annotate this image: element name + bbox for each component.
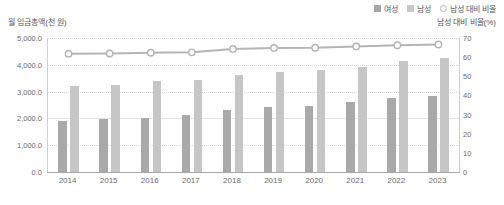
- gridline: [48, 65, 459, 66]
- bar-female[interactable]: [141, 118, 150, 172]
- x-axis-tick-label: 2017: [182, 176, 200, 185]
- bar-male[interactable]: [153, 81, 162, 172]
- y2-axis-tick-label: 40: [463, 91, 493, 100]
- y-axis-tick-label: 3,000.0: [0, 87, 42, 96]
- legend-item-ratio[interactable]: 남성 대비 비율: [440, 3, 496, 14]
- bar-female[interactable]: [346, 102, 355, 172]
- y2-axis-tick-label: 30: [463, 110, 493, 119]
- ratio-line-path: [69, 45, 439, 54]
- bar-female[interactable]: [182, 115, 191, 172]
- gridline: [48, 38, 459, 39]
- x-axis-tick-label: 2019: [264, 176, 282, 185]
- ratio-data-point[interactable]: [353, 43, 359, 49]
- bar-female[interactable]: [99, 119, 108, 172]
- ratio-line-series: [48, 38, 459, 172]
- bar-male[interactable]: [111, 85, 120, 172]
- y2-axis-tick-label: 10: [463, 148, 493, 157]
- right-axis-title: 남성 대비 비율(%): [437, 16, 496, 27]
- bar-female[interactable]: [428, 96, 437, 172]
- x-axis-tick-label: 2015: [100, 176, 118, 185]
- circle-marker-icon: [440, 5, 447, 12]
- bar-female[interactable]: [387, 98, 396, 172]
- y-axis-tick-label: 1,000.0: [0, 141, 42, 150]
- left-axis-title: 월 임금총액(천 원): [8, 16, 67, 27]
- y-axis-tick-label: 4,000.0: [0, 60, 42, 69]
- bar-male[interactable]: [235, 75, 244, 172]
- wage-gap-combo-chart: 여성 남성 남성 대비 비율 월 임금총액(천 원) 남성 대비 비율(%) 0…: [0, 0, 504, 205]
- x-axis-tick-label: 2023: [429, 176, 447, 185]
- bar-male[interactable]: [440, 58, 449, 172]
- x-axis-tick-label: 2020: [305, 176, 323, 185]
- legend-label-female: 여성: [384, 3, 398, 14]
- bar-female[interactable]: [305, 106, 314, 172]
- bar-male[interactable]: [276, 72, 285, 172]
- y2-axis-tick-label: 50: [463, 72, 493, 81]
- square-swatch-icon: [407, 5, 414, 12]
- legend-item-male[interactable]: 남성: [407, 3, 431, 14]
- ratio-data-point[interactable]: [148, 50, 154, 56]
- ratio-data-point[interactable]: [189, 49, 195, 55]
- y2-axis-tick-label: 0: [463, 168, 493, 177]
- ratio-data-point[interactable]: [106, 50, 112, 56]
- x-axis-tick-label: 2018: [223, 176, 241, 185]
- bar-male[interactable]: [317, 70, 326, 172]
- legend-item-female[interactable]: 여성: [374, 3, 398, 14]
- legend-label-male: 남성: [417, 3, 431, 14]
- y-axis-tick-label: 2,000.0: [0, 114, 42, 123]
- bar-male[interactable]: [399, 61, 408, 172]
- y-axis-tick-label: 5,000.0: [0, 34, 42, 43]
- plot-area: [47, 38, 460, 173]
- y2-axis-tick-label: 70: [463, 34, 493, 43]
- x-axis-tick-label: 2022: [387, 176, 405, 185]
- bar-male[interactable]: [358, 67, 367, 172]
- bar-female[interactable]: [264, 107, 273, 172]
- y-axis-tick-label: 0.0: [0, 168, 42, 177]
- legend-label-ratio: 남성 대비 비율: [450, 3, 496, 14]
- x-axis-tick-label: 2016: [141, 176, 159, 185]
- ratio-data-point[interactable]: [394, 42, 400, 48]
- y2-axis-tick-label: 20: [463, 129, 493, 138]
- ratio-data-point[interactable]: [312, 45, 318, 51]
- ratio-data-point[interactable]: [435, 41, 441, 47]
- ratio-data-point[interactable]: [230, 46, 236, 52]
- y2-axis-tick-label: 60: [463, 53, 493, 62]
- bar-female[interactable]: [58, 121, 67, 172]
- x-axis-tick-label: 2021: [346, 176, 364, 185]
- gridline: [48, 118, 459, 119]
- x-axis-tick-label: 2014: [59, 176, 77, 185]
- ratio-data-point[interactable]: [65, 50, 71, 56]
- gridline: [48, 92, 459, 93]
- square-swatch-icon: [374, 5, 381, 12]
- bar-male[interactable]: [194, 80, 203, 172]
- bar-female[interactable]: [223, 110, 232, 172]
- ratio-data-point[interactable]: [271, 45, 277, 51]
- chart-legend: 여성 남성 남성 대비 비율: [374, 3, 496, 14]
- bar-male[interactable]: [70, 86, 79, 172]
- gridline: [48, 145, 459, 146]
